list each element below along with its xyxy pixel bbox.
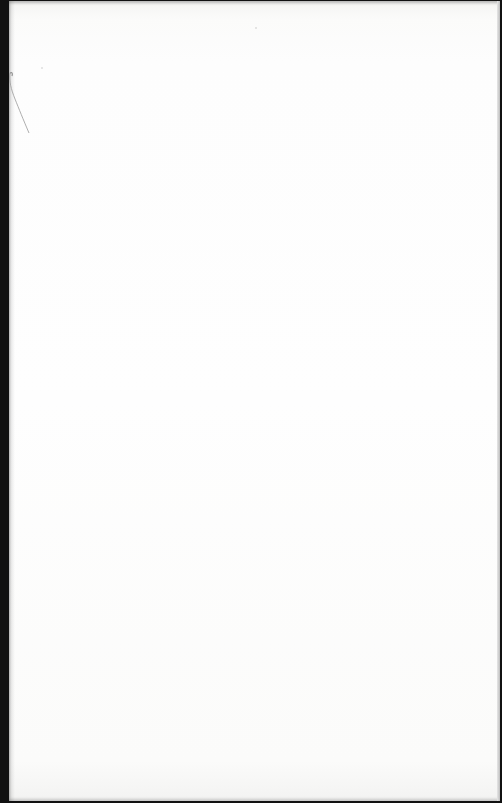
- dust-speck: [41, 67, 43, 69]
- page-right-border: [497, 1, 500, 801]
- scanned-document: [0, 0, 502, 803]
- blank-page: [9, 1, 500, 801]
- dust-speck: [255, 27, 257, 29]
- fiber-mark-icon: [9, 71, 33, 141]
